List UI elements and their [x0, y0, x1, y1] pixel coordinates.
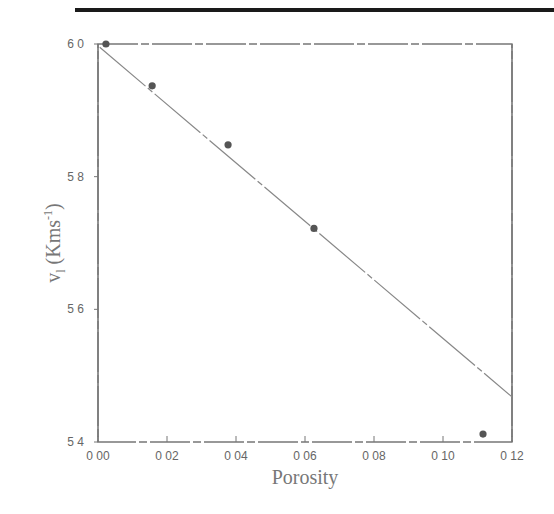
- porosity-velocity-chart: 0 000 020 040 060 080 100 125 45 65 86 0…: [0, 0, 554, 514]
- axis-labels: Porosity vl (Kms-1): [41, 203, 338, 489]
- y-axis-label: vl (Kms-1): [41, 203, 68, 282]
- y-tick-label: 5 4: [67, 435, 84, 449]
- data-point: [149, 82, 156, 89]
- x-tick-label: 0 08: [362, 449, 386, 463]
- x-tick-label: 0 12: [500, 449, 524, 463]
- x-tick-label: 0 02: [155, 449, 179, 463]
- x-tick-label: 0 04: [224, 449, 248, 463]
- x-tick-label: 0 00: [86, 449, 110, 463]
- data-point: [102, 40, 109, 47]
- fit-line: [100, 47, 512, 397]
- y-tick-label: 5 8: [67, 170, 84, 184]
- plot-border: [98, 44, 512, 442]
- data-points: [102, 40, 486, 437]
- x-tick-label: 0 06: [293, 449, 317, 463]
- data-point: [479, 430, 486, 437]
- data-point: [224, 141, 231, 148]
- y-tick-label: 6 0: [67, 37, 84, 51]
- axis-ticks: 0 000 020 040 060 080 100 125 45 65 86 0: [67, 37, 524, 463]
- linear-fit-line: [100, 47, 512, 397]
- plot-frame: [98, 44, 512, 442]
- data-point: [310, 225, 317, 232]
- x-axis-label: Porosity: [272, 466, 339, 489]
- x-tick-label: 0 10: [431, 449, 455, 463]
- y-tick-label: 5 6: [67, 302, 84, 316]
